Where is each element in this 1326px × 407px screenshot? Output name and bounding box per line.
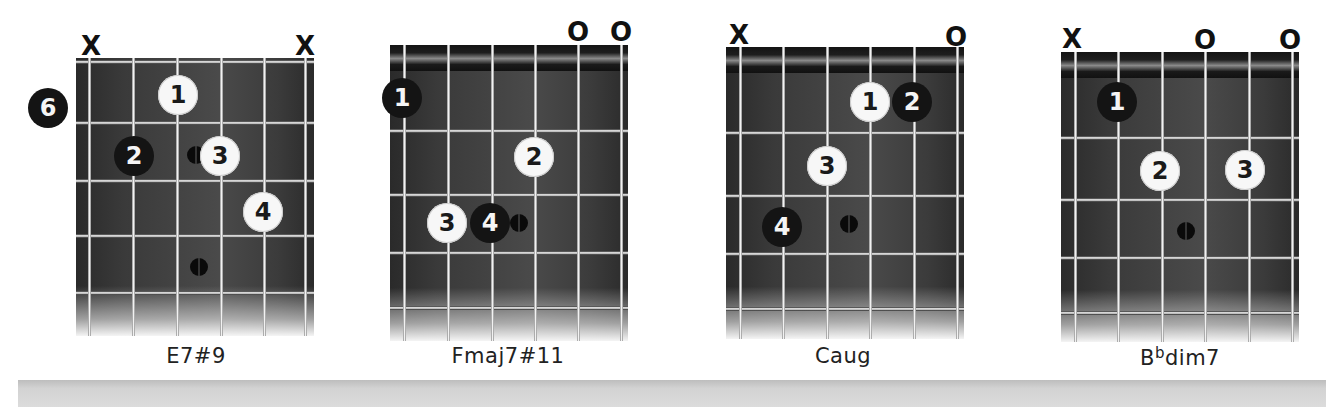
open-string-marker: O: [567, 19, 589, 45]
chord-name-flat: b: [1155, 344, 1165, 362]
string-line: [739, 47, 742, 339]
string-line: [403, 45, 406, 341]
finger-marker-2: 2: [514, 137, 554, 177]
fret-line: [726, 194, 964, 198]
string-line: [826, 47, 829, 339]
fret-line: [1061, 311, 1299, 315]
fret-line: [76, 291, 314, 295]
string-line: [577, 45, 580, 341]
string-line: [956, 47, 959, 339]
finger-marker-1: 1: [1097, 82, 1137, 122]
bottom-divider-bar: [18, 380, 1326, 407]
chord-name: E7#9: [166, 344, 226, 368]
string-line: [1161, 52, 1164, 342]
fret-position-badge: 6: [28, 88, 68, 128]
string-line: [782, 47, 785, 339]
string-line: [491, 45, 494, 341]
finger-marker-3: 3: [427, 203, 467, 243]
fret-line: [390, 306, 628, 310]
fretboard: [726, 47, 964, 339]
fret-line: [1061, 256, 1299, 260]
open-string-marker: O: [945, 24, 967, 50]
chord-name: Fmaj7#11: [452, 344, 565, 368]
fret-line: [390, 129, 628, 133]
muted-string-marker: X: [729, 22, 749, 48]
finger-marker-3: 3: [200, 136, 240, 176]
finger-marker-1: 1: [382, 78, 422, 118]
fretboard: [1061, 52, 1299, 342]
open-string-marker: O: [610, 19, 632, 45]
nut: [390, 45, 628, 71]
chord-name-quality: dim7: [1165, 346, 1220, 370]
string-line: [304, 58, 307, 336]
fret-line: [390, 251, 628, 255]
fret-inlay-dot: [510, 214, 528, 232]
string-line: [534, 45, 537, 341]
fret-line: [390, 193, 628, 197]
muted-string-marker: X: [1062, 26, 1082, 52]
muted-string-marker: X: [295, 33, 315, 59]
finger-marker-2: 2: [892, 82, 932, 122]
string-line: [869, 47, 872, 339]
string-line: [132, 58, 135, 336]
open-string-marker: O: [1194, 27, 1216, 53]
fretboard: [390, 45, 628, 341]
fret-line: [1061, 136, 1299, 140]
string-line: [220, 58, 223, 336]
finger-marker-4: 4: [243, 192, 283, 232]
finger-marker-2: 2: [114, 136, 154, 176]
finger-marker-4: 4: [762, 207, 802, 247]
string-line: [913, 47, 916, 339]
fret-line: [76, 234, 314, 238]
nut: [1061, 52, 1299, 78]
string-line: [1248, 52, 1251, 342]
string-line: [620, 45, 623, 341]
fret-inlay-dot: [1177, 222, 1195, 240]
chord-diagram-e7sharp9: X X 6 1 2 3 4 E7#9: [0, 0, 340, 370]
string-line: [88, 58, 91, 336]
nut: [726, 47, 964, 73]
fret-line: [726, 131, 964, 135]
string-line: [447, 45, 450, 341]
fret-inlay-dot: [840, 215, 858, 233]
fret-line: [726, 252, 964, 256]
string-line: [1117, 52, 1120, 342]
finger-marker-3: 3: [807, 146, 847, 186]
fret-inlay-dot: [190, 258, 208, 276]
fret-line: [1061, 198, 1299, 202]
fret-line: [76, 121, 314, 125]
muted-string-marker: X: [81, 33, 101, 59]
open-string-marker: O: [1279, 27, 1301, 53]
finger-marker-4: 4: [470, 203, 510, 243]
string-line: [1074, 52, 1077, 342]
chord-name: Bbdim7: [1140, 344, 1220, 370]
chord-name-root: B: [1140, 346, 1155, 370]
finger-marker-2: 2: [1140, 151, 1180, 191]
finger-marker-3: 3: [1225, 150, 1265, 190]
fret-line: [726, 307, 964, 311]
string-line: [1204, 52, 1207, 342]
finger-marker-1: 1: [158, 75, 198, 115]
fret-line: [76, 179, 314, 183]
chord-name: Caug: [815, 344, 871, 368]
finger-marker-1: 1: [850, 82, 890, 122]
string-line: [1291, 52, 1294, 342]
fret-line: [76, 60, 314, 64]
